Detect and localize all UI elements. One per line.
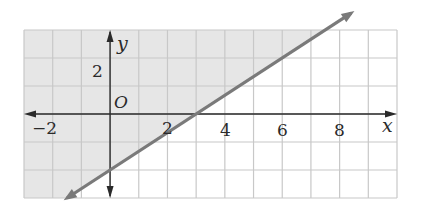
x-tick-6: 6 [277, 122, 288, 139]
x-tick-4: 4 [220, 122, 231, 139]
x-tick-8: 8 [334, 122, 345, 139]
origin-label: O [114, 94, 128, 111]
inequality-graph [0, 0, 422, 207]
y-axis-label: y [117, 34, 128, 53]
x-tick-2: 2 [162, 120, 173, 137]
x-tick-neg2: −2 [32, 120, 57, 137]
x-axis-label: x [382, 116, 393, 135]
y-axis-arrow-down-icon [107, 186, 114, 198]
y-tick-2: 2 [92, 63, 103, 80]
boundary-arrow-up-icon [341, 11, 355, 22]
